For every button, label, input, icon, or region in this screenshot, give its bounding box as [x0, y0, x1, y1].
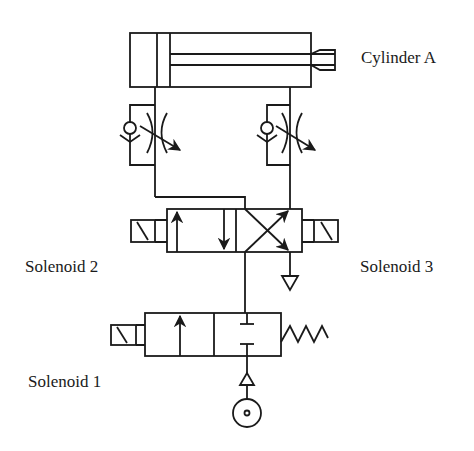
valve-body	[167, 209, 302, 252]
rod-end-fitting	[311, 50, 335, 70]
solenoid-2-actuator	[131, 220, 167, 242]
flow-control-right	[257, 87, 315, 209]
throttle-right-arc	[162, 113, 168, 153]
exhaust	[282, 252, 298, 290]
valve-3-2	[111, 313, 328, 356]
solenoid-stem	[155, 220, 167, 242]
label-cylinder-a: Cylinder A	[361, 49, 436, 66]
valve-body	[145, 313, 281, 356]
label-solenoid-1: Solenoid 1	[28, 373, 101, 390]
solenoid-diagonal	[117, 327, 127, 343]
spring-return	[281, 326, 328, 342]
solenoid-diagonal	[321, 222, 332, 240]
adjustable-arrow	[276, 126, 315, 150]
pressure-source	[233, 356, 261, 427]
compressor-circle	[233, 399, 261, 427]
check-valve-ball	[261, 122, 273, 134]
solenoid-1-actuator	[111, 325, 145, 345]
cross-arrow-down	[245, 209, 288, 250]
line-cylinder-to-valve-left	[155, 197, 245, 209]
adjustable-arrow	[140, 126, 180, 150]
cylinder-a	[130, 33, 335, 87]
exhaust-triangle	[282, 276, 298, 290]
solenoid-diagonal	[137, 222, 148, 240]
solenoid-stem	[136, 325, 145, 345]
label-solenoid-2: Solenoid 2	[25, 258, 98, 275]
cross-arrow-up	[245, 211, 288, 252]
throttle-right-arc	[297, 113, 303, 153]
bypass-loop	[130, 105, 155, 165]
solenoid-stem	[302, 220, 314, 242]
valve-4-3	[131, 209, 338, 252]
pressure-triangle	[240, 373, 254, 385]
solenoid-coil	[111, 325, 136, 345]
solenoid-3-actuator	[302, 220, 338, 242]
check-valve-ball	[124, 122, 136, 134]
flow-control-left	[120, 87, 180, 197]
label-solenoid-3: Solenoid 3	[360, 258, 433, 275]
